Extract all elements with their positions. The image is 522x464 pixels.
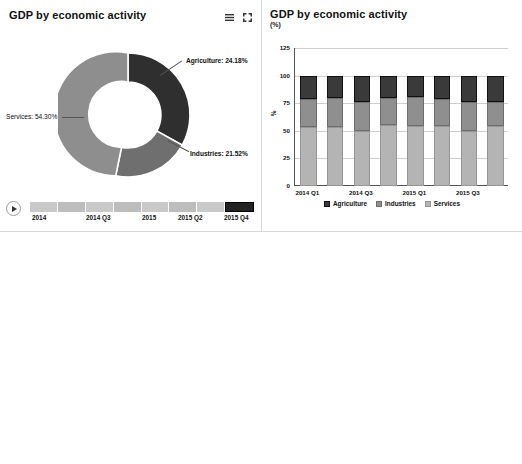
legend-swatch: [376, 201, 382, 207]
donut-chart: [58, 43, 198, 188]
timeline-tick-label: 2015 Q4: [224, 214, 249, 221]
stacked-plot-area: [294, 48, 508, 186]
stacked-bar-segment[interactable]: [434, 99, 451, 126]
timeline-segment[interactable]: [30, 202, 57, 212]
play-button[interactable]: [6, 201, 21, 216]
stacked-bar-segment[interactable]: [354, 102, 371, 132]
stacked-bar-segment[interactable]: [327, 127, 344, 186]
stacked-bar-segment[interactable]: [434, 126, 451, 186]
timeline-tick-label: 2015: [142, 214, 156, 221]
stacked-y-tick-label: 100: [268, 72, 290, 79]
stacked-y-tick-label: 75: [268, 99, 290, 106]
stacked-x-tick-label: 2015 Q3: [448, 189, 489, 196]
stacked-gridline: [295, 48, 508, 49]
stacked-bar-segment[interactable]: [300, 127, 317, 186]
stacked-bar-segment[interactable]: [487, 76, 504, 103]
timeline-segment[interactable]: [197, 202, 224, 212]
stacked-x-tick-label: 2014 Q3: [341, 189, 382, 196]
stacked-y-tick-label: 0: [268, 182, 290, 189]
donut-label-agriculture: Agriculture: 24.18%: [186, 57, 248, 64]
timeline-segment-selected[interactable]: [225, 202, 254, 212]
stacked-bar-segment[interactable]: [380, 76, 397, 98]
stacked-bar-segment[interactable]: [327, 76, 344, 99]
donut-panel-title: GDP by economic activity: [9, 9, 146, 21]
stacked-bar-segment[interactable]: [461, 102, 478, 131]
legend-label: Agriculture: [333, 200, 367, 207]
timeline-slider[interactable]: 2014 2014 Q3 2015 2015 Q2 2015 Q4: [6, 198, 256, 226]
stacked-x-tick-label: 2014 Q1: [287, 189, 328, 196]
stacked-bar-segment[interactable]: [300, 76, 317, 99]
stacked-bar-segment[interactable]: [461, 76, 478, 102]
stacked-bar-segment[interactable]: [434, 76, 451, 99]
timeline-segment[interactable]: [142, 202, 169, 212]
stacked-bar-segment[interactable]: [407, 76, 424, 98]
legend-label: Industries: [385, 200, 416, 207]
timeline-tick-label: 2014: [32, 214, 46, 221]
stacked-y-tick-label: 50: [268, 127, 290, 134]
expand-icon[interactable]: [242, 9, 253, 20]
stacked-panel-title: GDP by economic activity: [270, 8, 407, 20]
agriculture-panel: Agriculture (%) % 0510152025302014 Q1201…: [0, 232, 522, 464]
timeline-track[interactable]: [30, 202, 254, 212]
stacked-y-axis-title: %: [270, 111, 277, 117]
gdp-stacked-panel: GDP by economic activity (%) % 025507510…: [262, 0, 522, 232]
gdp-donut-panel: GDP by economic activity: [0, 0, 262, 232]
stacked-bar-segment[interactable]: [407, 97, 424, 126]
timeline-segment[interactable]: [86, 202, 113, 212]
menu-icon[interactable]: [224, 9, 235, 20]
timeline-tick-label: 2015 Q2: [178, 214, 203, 221]
stacked-bar-segment[interactable]: [300, 99, 317, 128]
legend-item[interactable]: Industries: [376, 200, 416, 207]
stacked-bar-segment[interactable]: [461, 131, 478, 186]
timeline-tick-label: 2014 Q3: [86, 214, 111, 221]
timeline-segment[interactable]: [58, 202, 85, 212]
stacked-bar-segment[interactable]: [354, 76, 371, 102]
legend-item[interactable]: Services: [425, 200, 460, 207]
stacked-bar-segment[interactable]: [380, 98, 397, 126]
legend-item[interactable]: Agriculture: [324, 200, 367, 207]
stacked-bar-segment[interactable]: [407, 126, 424, 186]
stacked-legend: AgricultureIndustriesServices: [324, 200, 460, 207]
donut-label-industries: Industries: 21.52%: [190, 150, 248, 157]
donut-slice-agriculture[interactable]: [128, 53, 190, 145]
donut-svg: [58, 43, 198, 188]
stacked-y-tick-label: 125: [268, 44, 290, 51]
stacked-panel-unit: (%): [270, 21, 281, 28]
legend-swatch: [324, 201, 330, 207]
donut-label-services: Services: 54.30%: [6, 113, 57, 120]
stacked-bar-segment[interactable]: [327, 98, 344, 127]
stacked-y-tick-label: 25: [268, 154, 290, 161]
stacked-bar-segment[interactable]: [380, 125, 397, 186]
timeline-segment[interactable]: [169, 202, 196, 212]
panel-header-icons: [224, 9, 253, 20]
stacked-x-tick-label: 2015 Q1: [394, 189, 435, 196]
donut-slice-services[interactable]: [58, 52, 128, 176]
stacked-bar-segment[interactable]: [487, 102, 504, 126]
leader-line-services: [62, 117, 84, 118]
timeline-segment[interactable]: [114, 202, 141, 212]
stacked-bar-segment[interactable]: [354, 131, 371, 186]
legend-swatch: [425, 201, 431, 207]
legend-label: Services: [434, 200, 460, 207]
stacked-bar-segment[interactable]: [487, 126, 504, 186]
